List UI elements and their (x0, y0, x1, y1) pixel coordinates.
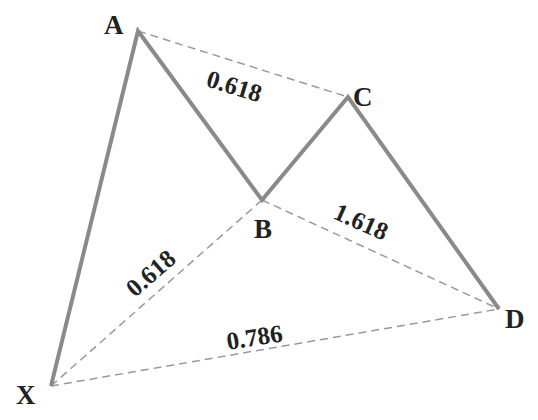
ratio-label-bd: 1.618 (330, 198, 392, 246)
point-label-a: A (104, 10, 124, 40)
point-label-b: B (254, 214, 272, 244)
point-label-x: X (16, 380, 36, 410)
ratio-label-xd: 0.786 (225, 319, 285, 354)
point-label-c: C (353, 82, 373, 112)
ratio-line-xb (51, 200, 262, 386)
point-label-d: D (505, 304, 525, 334)
harmonic-pattern-diagram: A B C D X 0.618 0.618 1.618 0.786 (0, 0, 538, 420)
ratio-label-xb: 0.618 (121, 244, 181, 301)
ratio-label-ac: 0.618 (204, 65, 266, 107)
